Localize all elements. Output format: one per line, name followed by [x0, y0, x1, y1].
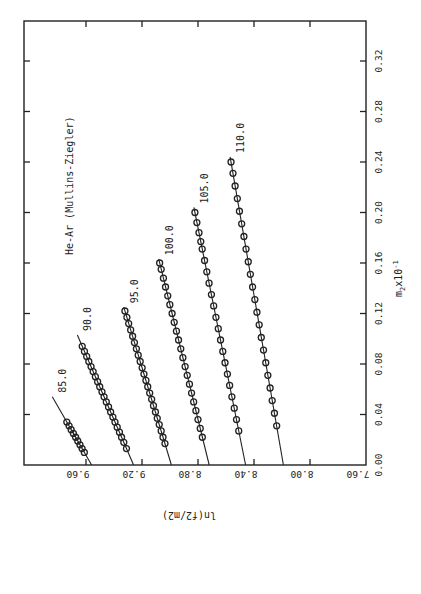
x-tick-label: 0.20 [373, 201, 384, 224]
axis-ticks: 0.000.040.080.120.160.200.240.280.329.60… [24, 21, 384, 480]
series-label: 100.0 [164, 225, 175, 255]
series-90.0 [77, 335, 133, 465]
x-tick-label: 0.24 [373, 150, 384, 173]
series-label: 105.0 [199, 173, 210, 203]
series-labels: 85.090.095.0100.0105.0110.0 [57, 123, 246, 393]
x-tick-label: 0.12 [373, 302, 384, 325]
plot-frame [24, 21, 366, 465]
fit-line [230, 157, 283, 465]
y-tick-label: 9.20 [122, 469, 145, 480]
svg-text:m2x10-1: m2x10-1 [392, 260, 407, 297]
series-85.0 [52, 397, 91, 465]
x-tick-label: 0.00 [373, 453, 384, 476]
y-tick-label: 9.60 [66, 469, 89, 480]
series-95.0 [122, 307, 171, 465]
x-tick-label: 0.08 [373, 352, 384, 375]
x-tick-label: 0.32 [373, 50, 384, 73]
y-tick-label: 8.00 [290, 469, 313, 480]
x-tick-label: 0.16 [373, 251, 384, 274]
y-tick-label: 8.40 [234, 469, 257, 480]
fit-line [124, 307, 172, 465]
plot-border [24, 21, 366, 465]
x-axis-label: m2x10-1 [392, 260, 407, 297]
y-tick-label: 8.80 [178, 469, 201, 480]
x-tick-label: 0.28 [373, 100, 384, 123]
x-tick-label: 0.04 [373, 403, 384, 426]
series-label: 95.0 [129, 279, 140, 303]
y-tick-label: 7.60 [346, 469, 369, 480]
series-label: 110.0 [235, 123, 246, 153]
series-label: 85.0 [57, 369, 68, 393]
chart-annotation: He-Ar (Mullins-Ziegler) [64, 117, 75, 255]
series-label: 90.0 [82, 307, 93, 331]
chart: 0.000.040.080.120.160.200.240.280.329.60… [0, 0, 421, 594]
y-axis-label: ln(f2/m2) [162, 510, 216, 521]
